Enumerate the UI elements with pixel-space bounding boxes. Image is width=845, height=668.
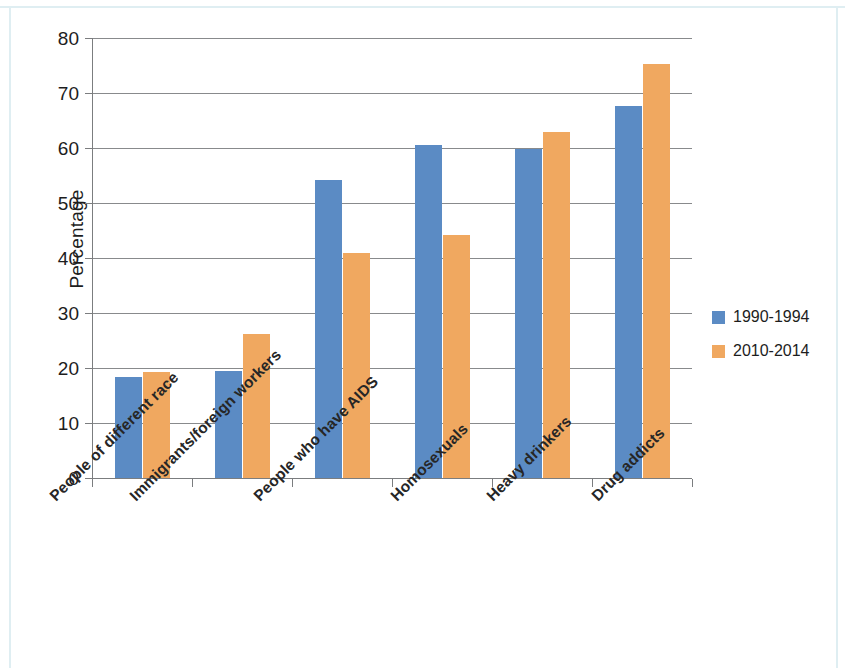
gridline: [92, 203, 692, 204]
y-tick-mark: [85, 368, 92, 369]
x-tick-mark: [692, 479, 693, 487]
gridline: [92, 368, 692, 369]
y-tick-mark: [85, 258, 92, 259]
bar-1990-1994[interactable]: [615, 106, 642, 478]
legend-label: 1990-1994: [733, 308, 810, 326]
bar-1990-1994[interactable]: [515, 149, 542, 478]
y-tick-label: 50: [9, 194, 79, 213]
y-tick-label: 70: [9, 84, 79, 103]
gridline: [92, 423, 692, 424]
bar-2010-2014[interactable]: [643, 64, 670, 478]
plot-area: [92, 38, 692, 478]
y-axis-tick-labels: 80 70 60 50 40 30 20 10 0: [0, 0, 79, 668]
y-tick-mark: [85, 148, 92, 149]
y-tick-label: 20: [9, 359, 79, 378]
legend-swatch-icon: [712, 311, 725, 324]
bar-1990-1994[interactable]: [415, 145, 442, 478]
chart-figure: Percentage 80 70 60 50 40 30 20 10 0: [0, 0, 845, 668]
y-tick-mark: [85, 93, 92, 94]
y-tick-label: 30: [9, 304, 79, 323]
y-tick-label: 40: [9, 249, 79, 268]
gridline: [92, 38, 692, 39]
legend-item-2010-2014[interactable]: 2010-2014: [712, 334, 837, 368]
x-tick-mark: [292, 479, 293, 487]
y-tick-label: 80: [9, 29, 79, 48]
y-axis-line: [92, 38, 93, 479]
x-tick-mark: [192, 479, 193, 487]
legend-item-1990-1994[interactable]: 1990-1994: [712, 300, 837, 334]
y-tick-label: 60: [9, 139, 79, 158]
y-tick-mark: [85, 38, 92, 39]
y-tick-label: 10: [9, 414, 79, 433]
bar-2010-2014[interactable]: [343, 253, 370, 479]
figure-border-top: [0, 6, 845, 8]
gridline: [92, 148, 692, 149]
gridline: [92, 93, 692, 94]
x-tick-mark: [92, 479, 93, 487]
legend-swatch-icon: [712, 345, 725, 358]
chart-legend: 1990-1994 2010-2014: [712, 300, 837, 368]
y-tick-mark: [85, 423, 92, 424]
gridline: [92, 313, 692, 314]
legend-label: 2010-2014: [733, 342, 810, 360]
gridline: [92, 258, 692, 259]
y-tick-mark: [85, 478, 92, 479]
y-tick-mark: [85, 203, 92, 204]
y-tick-mark: [85, 313, 92, 314]
